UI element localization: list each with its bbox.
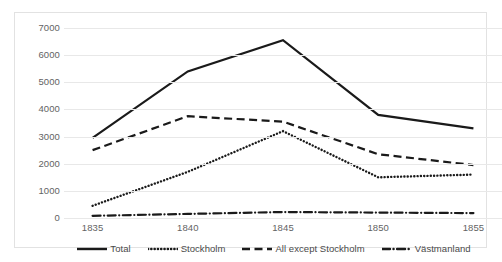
- chart-legend: TotalStockholmAll except StockholmVästma…: [64, 241, 484, 257]
- series-lines-svg: [64, 28, 502, 218]
- y-tick-label: 2000: [38, 159, 60, 169]
- x-axis-tick-labels: 18351840184518501855: [64, 223, 502, 237]
- y-tick-label: 0: [55, 213, 60, 223]
- series-line-stockholm: [93, 131, 474, 206]
- y-tick-label: 1000: [38, 186, 60, 196]
- gridline-y: [64, 82, 502, 83]
- y-tick-label: 7000: [38, 23, 60, 33]
- series-line-all-except-stockholm: [93, 116, 474, 165]
- y-tick-label: 3000: [38, 132, 60, 142]
- y-tick-label: 4000: [38, 104, 60, 114]
- x-tick-label: 1840: [177, 223, 199, 233]
- legend-swatch-icon: [148, 244, 178, 254]
- gridline-y: [64, 109, 502, 110]
- gridline-y: [64, 55, 502, 56]
- chart-frame: 01000200030004000500060007000 1835184018…: [14, 12, 487, 248]
- y-axis-tick-labels: 01000200030004000500060007000: [29, 13, 60, 249]
- series-line-västmanland: [93, 212, 474, 216]
- legend-label: Stockholm: [181, 244, 226, 254]
- legend-swatch-icon: [77, 244, 107, 254]
- gridline-y: [64, 137, 502, 138]
- legend-label: All except Stockholm: [275, 244, 364, 254]
- gridline-y: [64, 164, 502, 165]
- y-tick-label: 6000: [38, 50, 60, 60]
- legend-item-stockholm[interactable]: Stockholm: [148, 244, 226, 254]
- legend-item-västmanland[interactable]: Västmanland: [382, 244, 471, 254]
- legend-item-total[interactable]: Total: [77, 244, 130, 254]
- y-tick-label: 5000: [38, 77, 60, 87]
- x-tick-label: 1850: [367, 223, 389, 233]
- legend-label: Västmanland: [415, 244, 471, 254]
- gridline-y: [64, 218, 502, 219]
- legend-swatch-icon: [242, 244, 272, 254]
- gridline-y: [64, 191, 502, 192]
- x-tick-label: 1855: [463, 223, 485, 233]
- x-tick-label: 1845: [272, 223, 294, 233]
- x-tick-label: 1835: [82, 223, 104, 233]
- legend-swatch-icon: [382, 244, 412, 254]
- gridline-y: [64, 28, 502, 29]
- plot-area: [64, 28, 502, 218]
- legend-item-all-except-stockholm[interactable]: All except Stockholm: [242, 244, 364, 254]
- legend-label: Total: [110, 244, 130, 254]
